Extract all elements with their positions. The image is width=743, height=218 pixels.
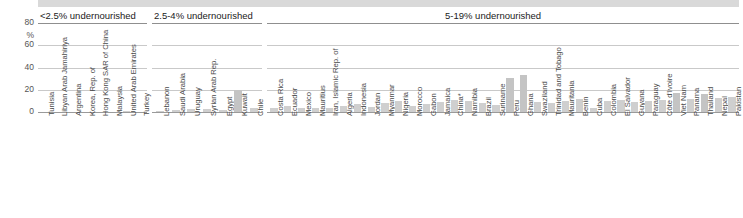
x-tick-label: Saudi Arabia <box>179 73 187 116</box>
gridline-80-group-2 <box>267 23 739 24</box>
x-tick-label: Chile <box>257 99 265 116</box>
x-tick-label: Egypt <box>226 97 234 116</box>
x-tick-label: Libyan Arab Jamahiriya <box>61 37 69 116</box>
group-title-2: 5-19% undernourished <box>445 11 541 21</box>
x-tick-label: Kuwait <box>241 93 249 116</box>
x-tick-label: Korea, Rep. of <box>89 67 97 116</box>
x-tick-label: Mexico <box>305 92 313 116</box>
plot-area: <2.5% undernourishedTunisiaLibyan Arab J… <box>38 0 739 218</box>
x-tick-label: Benin <box>582 97 590 116</box>
gridline-80-group-0 <box>38 23 147 24</box>
y-axis-unit-label: % <box>26 31 34 40</box>
x-tick-label: Lebanon <box>163 86 171 116</box>
x-tick-label: United Arab Emirates <box>130 44 138 116</box>
x-tick-label: Turkey <box>143 93 151 116</box>
gridline-80-group-1 <box>152 23 262 24</box>
y-axis: 80 % 60 40 20 0 <box>0 0 38 218</box>
x-tick-label: Argentina <box>75 83 83 116</box>
x-tick-label: Uruguay <box>194 87 202 116</box>
y-tick-60: 60 <box>25 40 34 49</box>
x-tick-label: Hong Kong SAR of China <box>102 30 110 116</box>
x-tick-label: Tunisia <box>48 92 56 116</box>
gridline-60-group-1 <box>152 45 262 46</box>
gridline-40-group-1 <box>152 68 262 69</box>
y-tick-40: 40 <box>25 63 34 72</box>
x-tick-label: Syrian Arab Rep. <box>210 59 218 116</box>
group-title-0: <2.5% undernourished <box>40 11 136 21</box>
group-title-1: 2.5-4% undernourished <box>154 11 253 21</box>
y-tick-80: 80 <box>25 18 34 27</box>
gridline-60-group-2 <box>267 45 739 46</box>
x-tick-label: Pakistan <box>735 87 743 116</box>
y-tick-0: 0 <box>29 107 34 116</box>
x-tick-label: Nigeria <box>402 92 410 116</box>
y-tick-20: 20 <box>25 85 34 94</box>
